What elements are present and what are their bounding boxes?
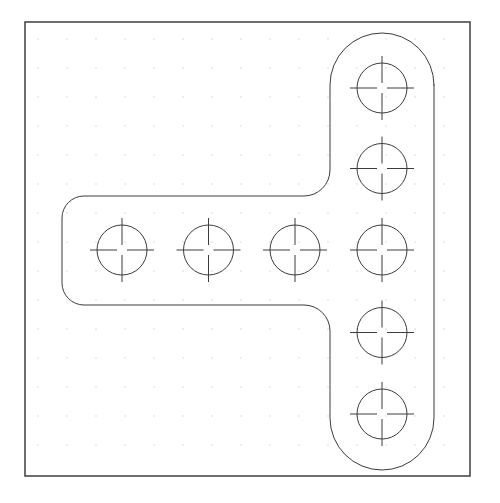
grid-dot: [415, 300, 416, 301]
grid-dot: [38, 213, 39, 214]
grid-dot: [183, 271, 184, 272]
grid-dot: [125, 387, 126, 388]
grid-dot: [212, 445, 213, 446]
grid-dot: [444, 126, 445, 127]
grid-dot: [212, 387, 213, 388]
grid-dot: [67, 445, 68, 446]
grid-dot: [444, 97, 445, 98]
grid-dot: [328, 155, 329, 156]
grid-dot: [386, 242, 387, 243]
grid-dot: [183, 358, 184, 359]
grid-dot: [183, 329, 184, 330]
grid-dot: [67, 184, 68, 185]
grid-dot: [328, 387, 329, 388]
grid-dot: [67, 416, 68, 417]
grid-dot: [357, 184, 358, 185]
grid-dot: [386, 271, 387, 272]
grid-dot: [241, 416, 242, 417]
grid-dot: [67, 213, 68, 214]
grid-dot: [96, 97, 97, 98]
grid-dot: [386, 387, 387, 388]
grid-dot: [357, 242, 358, 243]
grid-dot: [154, 126, 155, 127]
grid-dot: [183, 213, 184, 214]
grid-dot: [328, 445, 329, 446]
grid-dot: [270, 97, 271, 98]
grid-dot: [212, 184, 213, 185]
grid-dot: [415, 358, 416, 359]
grid-dot: [212, 213, 213, 214]
grid-dot: [241, 97, 242, 98]
grid-dot: [444, 271, 445, 272]
cad-drawing-canvas[interactable]: [0, 0, 500, 503]
grid-dot: [444, 300, 445, 301]
grid-dot: [328, 184, 329, 185]
grid-dot: [154, 213, 155, 214]
grid-dot: [154, 184, 155, 185]
grid-dot: [386, 445, 387, 446]
grid-dot: [38, 271, 39, 272]
grid-dot: [96, 68, 97, 69]
grid-dot: [328, 271, 329, 272]
grid-dot: [125, 416, 126, 417]
grid-dot: [415, 68, 416, 69]
grid-dot: [299, 445, 300, 446]
grid-dot: [154, 242, 155, 243]
grid-dot: [415, 387, 416, 388]
grid-dot: [125, 126, 126, 127]
grid-dot: [241, 445, 242, 446]
grid-dot: [299, 126, 300, 127]
grid-dot: [328, 358, 329, 359]
grid-dot: [67, 155, 68, 156]
grid-dot: [212, 300, 213, 301]
grid-dot: [299, 387, 300, 388]
grid-dot: [328, 97, 329, 98]
grid-dot: [38, 39, 39, 40]
grid-dot: [270, 242, 271, 243]
grid-dot: [444, 242, 445, 243]
grid-dot: [212, 242, 213, 243]
grid-dot: [154, 97, 155, 98]
grid-dot: [67, 242, 68, 243]
grid-dot: [38, 387, 39, 388]
grid-dot: [357, 68, 358, 69]
grid-dot: [241, 242, 242, 243]
grid-dot: [357, 213, 358, 214]
grid-dot: [183, 97, 184, 98]
grid-dot: [415, 416, 416, 417]
grid-dot: [125, 242, 126, 243]
grid-dot: [38, 68, 39, 69]
grid-dot: [241, 39, 242, 40]
grid-dot: [183, 300, 184, 301]
grid-dot: [241, 387, 242, 388]
grid-dot: [415, 213, 416, 214]
grid-dot: [67, 97, 68, 98]
grid-dot: [183, 184, 184, 185]
grid-dot: [96, 358, 97, 359]
grid-dot: [415, 155, 416, 156]
grid-dot: [386, 126, 387, 127]
grid-dot: [154, 387, 155, 388]
grid-dot: [328, 213, 329, 214]
grid-dot: [38, 242, 39, 243]
grid-dot: [357, 300, 358, 301]
grid-dot: [38, 329, 39, 330]
grid-dot: [96, 387, 97, 388]
grid-dot: [415, 271, 416, 272]
grid-dot: [212, 68, 213, 69]
grid-dot: [154, 39, 155, 40]
grid-dot: [183, 445, 184, 446]
grid-dot: [299, 358, 300, 359]
grid-dot: [270, 358, 271, 359]
grid-dot: [270, 387, 271, 388]
grid-dot: [67, 329, 68, 330]
grid-dot: [444, 416, 445, 417]
grid-dot: [357, 271, 358, 272]
grid-dot: [38, 445, 39, 446]
grid-dot: [444, 358, 445, 359]
grid-dot: [212, 329, 213, 330]
grid-dot: [444, 155, 445, 156]
grid-dot: [299, 416, 300, 417]
grid-dot: [299, 271, 300, 272]
grid-dot: [67, 39, 68, 40]
